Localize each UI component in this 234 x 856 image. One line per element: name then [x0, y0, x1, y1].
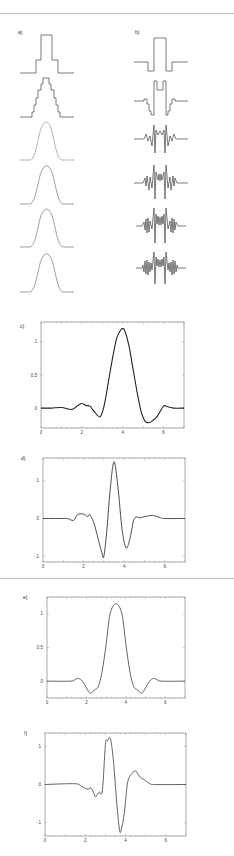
panel-a-row3 [20, 122, 74, 160]
x-tick-label: 2 [81, 430, 84, 435]
panel-a-row6 [20, 254, 74, 293]
data-curve [41, 329, 184, 423]
x-tick-label: 4 [123, 564, 126, 569]
panel-b-row4 [134, 165, 188, 199]
y-tick-label: -1 [35, 554, 39, 559]
plot-frame [41, 322, 184, 428]
x-tick-label: 4 [125, 700, 128, 705]
y-tick-label: 0 [34, 406, 37, 411]
panel-a-row1 [20, 35, 74, 73]
x-tick-label: 2 [84, 838, 87, 843]
x-tick-label: 2 [85, 700, 88, 705]
panel-a-row2 [20, 78, 74, 117]
x-tick-label: 4 [124, 838, 127, 843]
panel-b-row2 [134, 81, 188, 115]
y-tick-label: 1 [36, 478, 39, 483]
y-tick-label: 1 [38, 744, 41, 749]
x-tick-label: 0 [40, 430, 43, 435]
plot-frame [47, 597, 185, 698]
panel-f-axes: 0246-101 [37, 733, 186, 843]
panel-b-curves [134, 38, 188, 284]
panel-a-curves [20, 35, 74, 117]
panel-a-row5 [20, 209, 74, 247]
panel-b-row5 [136, 208, 186, 243]
x-tick-label: 6 [162, 430, 165, 435]
panel-a-row4 [20, 166, 74, 205]
data-curve [45, 737, 186, 832]
panel-c-axes: 024600.51 [31, 322, 184, 435]
x-tick-label: 0 [46, 700, 49, 705]
x-tick-label: 6 [165, 838, 168, 843]
x-tick-label: 6 [164, 700, 167, 705]
y-tick-label: 0 [40, 679, 43, 684]
data-curve [43, 462, 185, 558]
panel-d-axes: 0246-101 [35, 458, 185, 569]
panel-b-row6 [136, 252, 186, 284]
y-tick-label: 1 [40, 611, 43, 616]
x-tick-label: 2 [82, 564, 85, 569]
plot-frame [43, 458, 185, 562]
x-tick-label: 0 [42, 564, 45, 569]
panel-b-row1 [134, 38, 188, 71]
y-tick-label: 1 [34, 339, 37, 344]
x-tick-label: 0 [44, 838, 47, 843]
y-tick-label: 0.5 [31, 373, 38, 378]
x-tick-label: 6 [163, 564, 166, 569]
panel-e-axes: 024600.51 [37, 597, 185, 705]
x-tick-label: 4 [121, 430, 124, 435]
y-tick-label: 0.5 [37, 645, 44, 650]
data-curve [47, 604, 185, 694]
figure-canvas: 024600.51 0246-101 024600.51 0246-101 [0, 0, 234, 856]
y-tick-label: -1 [37, 820, 41, 825]
y-tick-label: 0 [36, 516, 39, 521]
panel-a-bells [20, 122, 74, 292]
y-tick-label: 0 [38, 782, 41, 787]
panel-b-row3 [134, 125, 188, 153]
